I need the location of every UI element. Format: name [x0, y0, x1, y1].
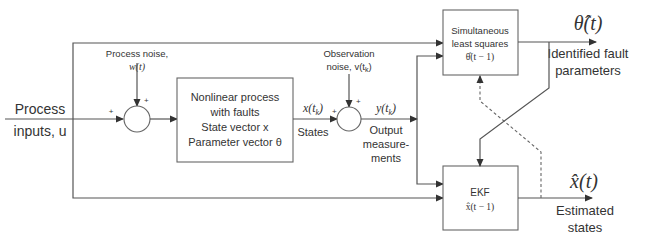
process-input-label-2: inputs, u — [14, 123, 67, 139]
summer2-plus-top: + — [356, 97, 361, 106]
ekf-line-2: x̂(t − 1) — [466, 202, 495, 213]
summer1-plus-top: + — [144, 96, 149, 105]
process-block-line-3: State vector x — [201, 121, 269, 133]
output-label-3: ments — [371, 152, 401, 164]
observation-noise-label-1: Observation — [323, 48, 374, 59]
summing-junction-1 — [124, 106, 150, 132]
states-label: States — [297, 126, 329, 138]
sls-line-1: Simultaneous — [451, 25, 509, 36]
observation-noise-label-2: noise, v(tk) — [326, 61, 371, 73]
process-block-line-2: with faults — [210, 106, 260, 118]
process-block-line-4: Parameter vector θ — [188, 136, 282, 148]
output-symbol: y(tk) — [375, 101, 396, 117]
output-label-2: measure- — [363, 138, 410, 150]
measurement-to-ekf-arrow — [417, 119, 443, 184]
process-input-label-1: Process — [15, 101, 66, 117]
ekf-block — [443, 166, 518, 230]
x-output-label-1: Estimated — [556, 203, 614, 218]
output-label-1: Output — [369, 124, 402, 136]
ekf-line-1: EKF — [470, 187, 489, 198]
sls-line-3: θ̂(t − 1) — [466, 52, 494, 63]
theta-output-label-1: Identified fault — [548, 46, 629, 61]
theta-hat-symbol: θ̂(t) — [574, 12, 603, 35]
block-diagram: Process inputs, u + Process noise, w(t) … — [0, 0, 646, 242]
theta-output-label-2: parameters — [555, 63, 621, 78]
x-output-label-2: states — [568, 220, 603, 235]
sls-line-2: least squares — [452, 38, 509, 49]
measurement-to-sls-arrow — [417, 56, 443, 119]
summer1-plus-left: + — [109, 107, 114, 116]
x-hat-symbol: x̂(t) — [569, 170, 598, 193]
summer2-plus-left: + — [332, 107, 337, 116]
process-noise-label-1: Process noise, — [106, 48, 168, 59]
state-symbol: x(tk) — [302, 101, 323, 117]
summing-junction-2 — [337, 107, 361, 131]
process-block-line-1: Nonlinear process — [191, 91, 280, 103]
